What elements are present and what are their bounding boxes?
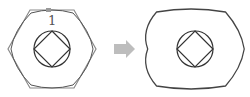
filleted-hexagon-outline <box>146 9 245 89</box>
before-shape: 1 <box>8 8 96 88</box>
edge-marker <box>46 8 51 12</box>
after-shape <box>146 9 245 89</box>
arrow-icon <box>114 40 135 58</box>
diagram-canvas: 1 <box>0 0 250 97</box>
inner-circle <box>34 31 70 67</box>
edge-label: 1 <box>48 13 56 28</box>
inner-circle <box>177 31 213 67</box>
